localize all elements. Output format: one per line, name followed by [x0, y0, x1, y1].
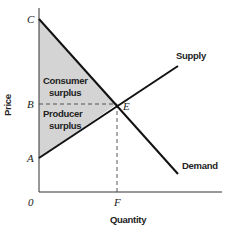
origin-label: 0: [28, 196, 34, 208]
consumer-surplus-label-line2: surplus: [49, 87, 81, 98]
point-c-label: C: [27, 13, 35, 25]
point-b-label: B: [27, 98, 34, 110]
point-f-label: F: [113, 196, 121, 208]
point-e-label: E: [122, 100, 130, 112]
producer-surplus-label-line1: Producer: [43, 108, 83, 119]
supply-label: Supply: [176, 50, 207, 61]
consumer-surplus-label-line1: Consumer: [43, 75, 88, 86]
y-axis-title: Price: [2, 94, 13, 116]
surplus-diagram: C B A E F 0 Supply Demand Consumer surpl…: [0, 0, 226, 232]
point-a-label: A: [26, 152, 34, 164]
producer-surplus-label-line2: surplus: [49, 120, 81, 131]
x-axis-title: Quantity: [110, 214, 147, 225]
demand-label: Demand: [182, 160, 218, 171]
